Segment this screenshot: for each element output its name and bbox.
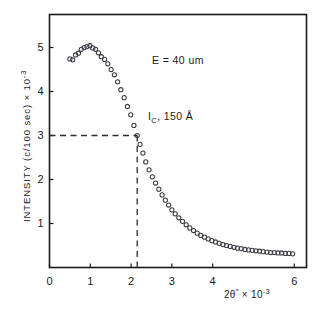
data-point bbox=[112, 73, 116, 77]
figure-container: 012346 12345 INTENSITY (c/100 sec) × 10-… bbox=[0, 0, 330, 315]
data-point bbox=[144, 160, 148, 164]
x-tick-label: 3 bbox=[162, 276, 182, 287]
data-point bbox=[170, 208, 174, 212]
x-axis-title: 2θ″ × 10-3 bbox=[224, 288, 270, 300]
annotation-critical-thickness: IC, 150 Å bbox=[148, 111, 193, 125]
data-point bbox=[163, 198, 167, 202]
x-axis-title-mid: × 10 bbox=[242, 289, 263, 300]
y-axis-title: INTENSITY (c/100 sec) × 10-3 bbox=[20, 46, 32, 246]
x-tick-label: 0 bbox=[40, 276, 60, 287]
data-point bbox=[96, 51, 100, 55]
y-axis-title-exponent: -3 bbox=[19, 70, 28, 78]
data-point bbox=[150, 175, 154, 179]
data-point bbox=[141, 151, 145, 155]
data-point bbox=[119, 88, 123, 92]
x-tick-label: 6 bbox=[284, 276, 304, 287]
rocking-curve-chart bbox=[0, 0, 330, 315]
x-axis-title-exponent: -3 bbox=[263, 287, 270, 296]
data-point bbox=[160, 193, 164, 197]
data-point bbox=[184, 223, 188, 227]
plot-frame bbox=[50, 15, 307, 268]
tick-marks bbox=[50, 48, 295, 268]
data-point bbox=[177, 216, 181, 220]
data-point bbox=[106, 62, 110, 66]
data-point-markers bbox=[68, 44, 295, 256]
annotation-energy-symbol: E bbox=[152, 54, 159, 66]
annotation-energy-equals: = bbox=[163, 54, 170, 66]
data-point bbox=[116, 80, 120, 84]
x-tick-label: 2 bbox=[121, 276, 141, 287]
data-point bbox=[157, 187, 161, 191]
x-tick-label: 1 bbox=[80, 276, 100, 287]
data-point bbox=[125, 104, 129, 108]
data-point bbox=[102, 57, 106, 61]
data-point bbox=[109, 67, 113, 71]
data-point bbox=[122, 96, 126, 100]
data-point bbox=[153, 181, 157, 185]
annotation-energy-value: 40 bbox=[173, 54, 185, 66]
data-point bbox=[129, 113, 133, 117]
data-point bbox=[132, 123, 136, 127]
x-tick-label: 4 bbox=[203, 276, 223, 287]
data-point bbox=[167, 203, 171, 207]
annotation-beam-energy: E = 40 um bbox=[152, 55, 204, 66]
data-point bbox=[147, 168, 151, 172]
reference-lines bbox=[50, 136, 138, 268]
data-point bbox=[173, 212, 177, 216]
x-axis-title-base: 2θ bbox=[224, 289, 236, 300]
x-axis-title-prime: ″ bbox=[236, 287, 239, 296]
annotation-ic-rest: , 150 Å bbox=[157, 110, 193, 122]
annotation-energy-unit: um bbox=[188, 54, 203, 66]
y-axis-title-base: INTENSITY (c/100 sec) × 10 bbox=[21, 78, 32, 222]
data-point bbox=[138, 142, 142, 146]
data-point bbox=[180, 219, 184, 223]
